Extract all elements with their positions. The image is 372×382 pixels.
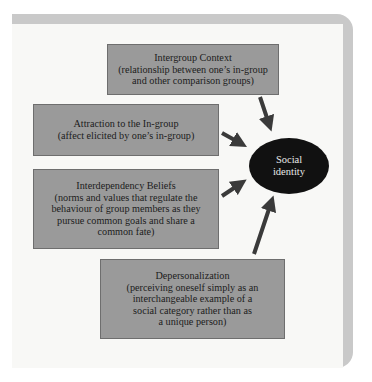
arrow-icon xyxy=(222,184,240,196)
arrow-icon xyxy=(254,203,271,254)
arrow-icon xyxy=(260,97,269,124)
arrow-icon xyxy=(222,133,240,143)
arrows xyxy=(0,0,372,382)
